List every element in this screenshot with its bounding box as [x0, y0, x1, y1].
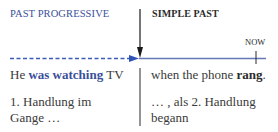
sentence-prefix: He [10, 67, 28, 82]
right-note-line1: … , als 2. Handlung [151, 94, 256, 110]
simple-past-heading: SIMPLE PAST [152, 8, 219, 19]
progressive-arrowhead-icon [129, 55, 139, 62]
left-note-line2: Gange … [10, 110, 91, 126]
simple-past-sentence: when the phone rang. [151, 67, 266, 83]
left-note: 1. Handlung im Gange … [10, 94, 91, 126]
left-note-line1: 1. Handlung im [10, 94, 91, 110]
sentence-suffix: . [263, 67, 266, 82]
right-note-line2: begann [151, 110, 256, 126]
sentence-prefix: when the phone [151, 67, 237, 82]
now-label: NOW [245, 37, 265, 47]
highlighted-verb: was watching [28, 67, 103, 82]
right-note: … , als 2. Handlung begann [151, 94, 256, 126]
past-progressive-heading: PAST PROGRESSIVE [10, 8, 109, 19]
progressive-sentence: He was watching TV [10, 67, 124, 83]
sentence-suffix: TV [103, 67, 123, 82]
event-arrowhead-icon [137, 47, 143, 58]
highlighted-verb: rang [237, 67, 263, 82]
